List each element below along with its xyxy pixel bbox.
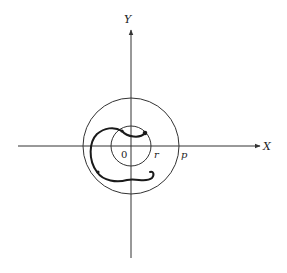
curve-start-point — [143, 131, 148, 136]
outer-radius-label: p — [181, 149, 188, 160]
curve-mid-point — [120, 129, 123, 132]
inner-radius-label: r — [154, 149, 160, 160]
y-axis-label: Y — [124, 13, 133, 26]
diagram-canvas: Y X 0 r p — [0, 0, 287, 273]
curve-lower-point — [96, 170, 99, 173]
origin-label: 0 — [121, 149, 127, 160]
x-axis-label: X — [262, 140, 272, 153]
